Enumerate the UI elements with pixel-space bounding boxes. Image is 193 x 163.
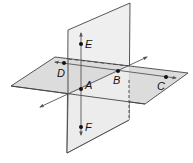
label-a: A bbox=[84, 79, 92, 91]
point-e bbox=[79, 42, 83, 46]
point-b bbox=[116, 69, 120, 73]
point-d bbox=[62, 61, 66, 65]
point-f bbox=[79, 125, 83, 129]
label-c: C bbox=[157, 80, 165, 92]
intersecting-planes-diagram: E D A B C F bbox=[0, 0, 193, 163]
point-c bbox=[164, 75, 168, 79]
label-b: B bbox=[113, 74, 120, 86]
label-e: E bbox=[85, 38, 93, 50]
label-d: D bbox=[57, 67, 65, 79]
point-a bbox=[79, 87, 83, 91]
